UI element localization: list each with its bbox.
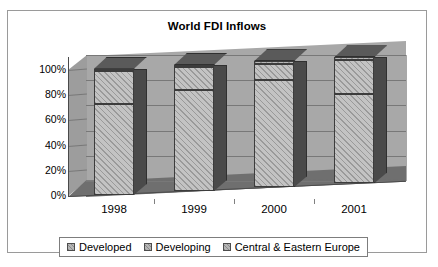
legend-item[interactable]: Central & Eastern Europe	[223, 242, 360, 253]
bar-segment	[334, 57, 374, 60]
bar-segment	[254, 61, 294, 64]
bar-side-face	[374, 57, 387, 183]
bar-1998[interactable]	[94, 41, 134, 201]
bar-segment	[94, 71, 134, 104]
y-axis-labels: 100%80%60%40%20%0%	[20, 41, 66, 201]
y-axis-tick-label: 80%	[22, 89, 66, 100]
y-axis-line	[68, 57, 69, 196]
x-axis-tick-label: 2001	[324, 203, 384, 215]
back-wall-left-panel	[68, 55, 87, 196]
chart-frame: World FDI Inflows 100%80%60%40%20%0% 199…	[7, 10, 427, 253]
legend-label: Central & Eastern Europe	[235, 242, 360, 253]
legend-swatch-developed	[67, 243, 75, 251]
x-axis-tick-label: 1999	[164, 203, 224, 215]
chart-title: World FDI Inflows	[8, 20, 426, 32]
y-axis-tick-label: 40%	[22, 140, 66, 151]
bar-segment	[174, 90, 214, 191]
x-axis-tick	[234, 199, 235, 204]
bar-side-face	[214, 65, 227, 191]
bar-side-face	[134, 69, 147, 195]
legend-item[interactable]: Developing	[144, 242, 211, 253]
y-axis-tick-label: 60%	[22, 114, 66, 125]
bar-2001[interactable]	[334, 41, 374, 201]
legend-swatch-developing	[144, 243, 152, 251]
legend-label: Developed	[79, 242, 132, 253]
bar-segment	[94, 69, 134, 72]
x-axis-tick	[154, 199, 155, 204]
bar-segment	[254, 64, 294, 80]
bar-1999[interactable]	[174, 41, 214, 201]
legend-label: Developing	[156, 242, 211, 253]
bar-side-face	[294, 61, 307, 187]
bar-segment	[94, 104, 134, 195]
bar-segment	[174, 67, 214, 90]
bar-2000[interactable]	[254, 41, 294, 201]
x-axis-tick	[314, 199, 315, 204]
bar-segment	[174, 65, 214, 68]
x-axis-tick-label: 2000	[244, 203, 304, 215]
bar-segment	[334, 94, 374, 183]
x-axis-labels: 1998199920002001	[20, 203, 416, 221]
x-axis-tick-label: 1998	[84, 203, 144, 215]
legend-item[interactable]: Developed	[67, 242, 132, 253]
bar-segment	[254, 80, 294, 187]
chart-legend: DevelopedDevelopingCentral & Eastern Eur…	[59, 237, 368, 257]
y-axis-tick-label: 0%	[22, 190, 66, 201]
plot-area: 100%80%60%40%20%0%	[20, 41, 416, 201]
y-axis-tick-label: 20%	[22, 165, 66, 176]
y-axis-tick-label: 100%	[22, 64, 66, 75]
legend-swatch-cee	[223, 243, 231, 251]
bar-segment	[334, 60, 374, 94]
